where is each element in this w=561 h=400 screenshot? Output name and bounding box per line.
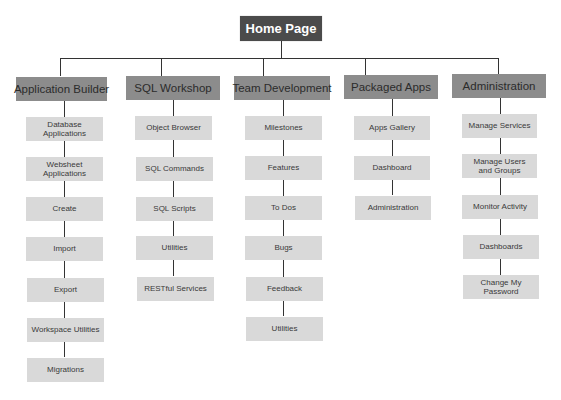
node-packaged-administration: Administration xyxy=(355,196,431,220)
node-migrations: Migrations xyxy=(27,358,104,382)
node-object-browser: Object Browser xyxy=(135,116,212,140)
node-monitor-activity: Monitor Activity xyxy=(462,195,538,219)
column-spine-packaged-apps xyxy=(392,99,393,195)
node-to-dos: To Dos xyxy=(245,196,322,220)
category-sql-workshop: SQL Workshop xyxy=(126,76,220,100)
category-team-development: Team Development xyxy=(234,76,330,100)
node-team-utilities: Utilities xyxy=(246,317,323,341)
node-manage-users-and-groups: Manage Users and Groups xyxy=(462,154,537,178)
node-dashboards: Dashboards xyxy=(463,235,539,259)
category-packaged-apps: Packaged Apps xyxy=(344,75,438,99)
category-connector xyxy=(498,58,499,74)
category-bus-line xyxy=(60,58,499,59)
node-database-applications: Database Applications xyxy=(26,117,103,141)
node-utilities: Utilities xyxy=(136,236,213,260)
root-connector xyxy=(281,41,282,58)
node-export: Export xyxy=(27,278,104,302)
node-feedback: Feedback xyxy=(246,277,323,301)
node-sql-scripts: SQL Scripts xyxy=(136,197,213,221)
node-workspace-utilities: Workspace Utilities xyxy=(27,318,104,342)
category-administration: Administration xyxy=(452,74,546,98)
node-manage-services: Manage Services xyxy=(462,114,537,138)
node-create: Create xyxy=(26,197,103,221)
home-page-node: Home Page xyxy=(240,16,322,41)
category-application-builder: Application Builder xyxy=(16,77,107,101)
node-features: Features xyxy=(245,156,322,180)
node-websheet-applications: Websheet Applications xyxy=(26,157,103,181)
node-milestones: Milestones xyxy=(245,116,322,140)
node-bugs: Bugs xyxy=(245,236,322,260)
category-connector xyxy=(161,58,162,76)
node-dashboard: Dashboard xyxy=(354,156,430,180)
category-connector xyxy=(365,58,366,75)
node-change-my-password: Change My Password xyxy=(463,275,539,299)
node-import: Import xyxy=(26,237,103,261)
node-restful-services: RESTful Services xyxy=(137,277,214,301)
node-apps-gallery: Apps Gallery xyxy=(354,116,430,140)
category-connector xyxy=(60,58,61,76)
category-connector xyxy=(263,58,264,76)
node-sql-commands: SQL Commands xyxy=(136,157,213,181)
